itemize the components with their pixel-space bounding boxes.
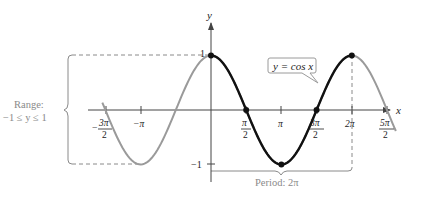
range-title: Range:: [14, 99, 44, 110]
svg-text:2: 2: [102, 130, 107, 140]
key-point: [349, 53, 355, 59]
svg-text:π: π: [278, 119, 283, 129]
svg-text:−: −: [92, 123, 97, 133]
svg-text:2: 2: [243, 130, 248, 140]
key-point: [208, 53, 214, 59]
svg-text:2: 2: [313, 130, 318, 140]
x-axis-label: x: [395, 104, 401, 116]
svg-text:2: 2: [383, 130, 388, 140]
key-point: [278, 162, 284, 168]
y-tick-1: 1: [200, 48, 205, 59]
key-point: [314, 107, 320, 113]
equation-label: y = cos x: [272, 60, 313, 72]
svg-text:2π: 2π: [345, 119, 355, 129]
key-point: [243, 107, 249, 113]
svg-text:π: π: [242, 118, 247, 128]
range-value: −1 ≤ y ≤ 1: [3, 112, 47, 123]
svg-text:−π: −π: [133, 119, 144, 129]
svg-text:3π: 3π: [309, 118, 320, 128]
equation-callout: y = cos x: [268, 58, 318, 83]
x-tick-labels: − 3π 2 −π π 2 π 3π 2 2π 5π 2: [92, 118, 394, 140]
cosine-graph: y = cos x y x 1 −1 − 3π 2 −π π 2 π 3π 2 …: [0, 0, 424, 198]
svg-text:5π: 5π: [380, 118, 390, 128]
period-label: Period: 2π: [255, 177, 299, 188]
svg-text:3π: 3π: [98, 118, 109, 128]
y-tick-neg1: −1: [191, 159, 202, 170]
y-axis-label: y: [206, 9, 212, 21]
